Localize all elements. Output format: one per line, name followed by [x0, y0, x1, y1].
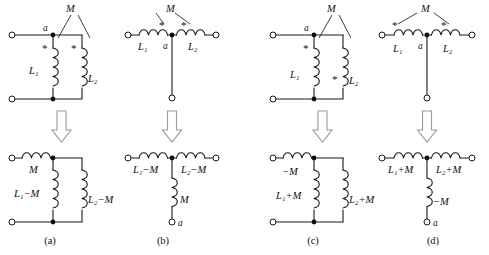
panel-c: M a * * L₁ L₂	[270, 3, 376, 247]
panel-caption-d: (d)	[427, 235, 440, 247]
label-coil-L2: L₂	[442, 43, 453, 54]
node-dot	[312, 33, 317, 38]
label-coil-L1: L₁	[28, 65, 39, 76]
node-dot	[170, 33, 175, 38]
panel-c-bottom-circuit: −M L₁+M L₂+M	[270, 153, 376, 225]
coil-L1	[394, 30, 423, 35]
open-terminal-icon[interactable]	[213, 32, 219, 38]
coil-minus-M-series	[283, 153, 312, 158]
dot-marker-L1: *	[159, 19, 165, 31]
label-node-a: a	[418, 41, 423, 51]
label-coil-L1: L₁	[289, 69, 300, 80]
label-series-minus-M: −M	[282, 166, 299, 177]
open-terminal-icon[interactable]	[469, 155, 475, 161]
coil-M-series	[22, 153, 51, 158]
transform-arrow-c	[313, 111, 332, 142]
coil-L1-plus-M	[394, 153, 423, 158]
coil-L1-minus-M	[53, 170, 58, 208]
open-terminal-icon[interactable]	[270, 32, 276, 38]
label-stem-M: M	[179, 194, 190, 205]
label-mutual-M: M	[65, 3, 76, 14]
panel-b-bottom-circuit: L₁−M L₂−M M a	[125, 153, 219, 228]
dot-marker-L2: *	[441, 19, 447, 31]
coil-L2	[343, 48, 348, 86]
panel-c-top-circuit: M a * * L₁ L₂	[270, 3, 359, 102]
label-coil-L1: L₁	[392, 43, 403, 54]
node-dot	[51, 156, 56, 161]
coil-M-stem	[172, 178, 177, 207]
coil-L1-plus-M	[314, 170, 319, 208]
transform-arrow-d	[418, 111, 437, 142]
node-dot	[51, 33, 56, 38]
node-dot	[51, 220, 56, 225]
label-stem-minus-M: −M	[433, 196, 450, 207]
coil-L2	[82, 48, 87, 86]
label-node-a: a	[163, 41, 168, 51]
label-coil-L1-plus-M: L₁+M	[275, 190, 303, 201]
label-coil-L2-minus-M: L₂−M	[180, 164, 208, 175]
open-terminal-icon[interactable]	[424, 95, 430, 101]
dot-marker-L1: *	[303, 42, 309, 54]
open-terminal-icon[interactable]	[125, 155, 131, 161]
panel-b: M * * a L₁ L₂	[125, 3, 219, 247]
transform-arrow-b	[163, 111, 182, 142]
label-coil-L2: L₂	[87, 73, 98, 84]
open-terminal-icon[interactable]	[169, 95, 175, 101]
label-stem-terminal-a: a	[178, 218, 183, 228]
open-terminal-icon[interactable]	[9, 155, 15, 161]
open-terminal-icon[interactable]	[9, 219, 15, 225]
node-dot	[312, 156, 317, 161]
label-coil-L1-minus-M: L₁−M	[132, 164, 160, 175]
dot-marker-L1: *	[42, 42, 48, 54]
coil-L1	[53, 48, 58, 86]
panel-caption-c: (c)	[307, 235, 319, 247]
coil-L2-plus-M	[343, 170, 348, 208]
open-terminal-icon[interactable]	[270, 96, 276, 102]
panel-a: M a * * L₁ L₂	[9, 3, 115, 247]
label-mutual-M: M	[326, 3, 337, 14]
node-dot	[312, 220, 317, 225]
label-series-M: M	[28, 164, 39, 175]
open-terminal-icon[interactable]	[9, 32, 15, 38]
panel-a-bottom-circuit: M L₁−M L₂−M	[9, 153, 115, 225]
label-node-a: a	[43, 23, 48, 33]
label-coil-L1-minus-M: L₁−M	[13, 188, 41, 199]
dot-marker-L2: *	[332, 73, 338, 85]
panel-d: M * * a L₁ L₂	[379, 3, 475, 247]
coil-L2-plus-M	[432, 153, 461, 158]
label-coil-L1-plus-M: L₁+M	[387, 164, 415, 175]
circuit-figure-canvas: M a * * L₁ L₂	[0, 0, 489, 255]
open-terminal-icon[interactable]	[424, 219, 430, 225]
open-terminal-icon[interactable]	[270, 155, 276, 161]
node-dot	[312, 97, 317, 102]
open-terminal-icon[interactable]	[125, 32, 131, 38]
open-terminal-icon[interactable]	[379, 155, 385, 161]
panel-d-bottom-circuit: L₁+M L₂+M −M a	[379, 153, 475, 228]
panel-b-top-circuit: M * * a L₁ L₂	[125, 3, 219, 101]
label-node-a: a	[304, 23, 309, 33]
dot-marker-L2: *	[181, 19, 187, 31]
coil-L2-minus-M	[177, 153, 206, 158]
label-coil-L2: L₂	[348, 75, 359, 86]
open-terminal-icon[interactable]	[469, 32, 475, 38]
coil-L1-minus-M	[139, 153, 168, 158]
panel-a-top-circuit: M a * * L₁ L₂	[9, 3, 98, 102]
label-mutual-M: M	[420, 3, 431, 14]
open-terminal-icon[interactable]	[9, 96, 15, 102]
open-terminal-icon[interactable]	[213, 155, 219, 161]
transform-arrow-a	[52, 111, 71, 142]
panel-caption-b: (b)	[157, 235, 170, 247]
dot-marker-L2: *	[71, 42, 77, 54]
open-terminal-icon[interactable]	[270, 219, 276, 225]
coil-L2-minus-M	[82, 170, 87, 208]
label-coil-L2: L₂	[187, 41, 198, 52]
label-mutual-M: M	[165, 3, 176, 14]
coil-L1	[314, 48, 319, 86]
panel-caption-a: (a)	[44, 235, 56, 247]
label-coil-L2-minus-M: L₂−M	[87, 194, 115, 205]
node-dot	[425, 33, 430, 38]
label-coil-L1: L₁	[137, 41, 148, 52]
open-terminal-icon[interactable]	[169, 219, 175, 225]
panel-d-top-circuit: M * * a L₁ L₂	[379, 3, 475, 101]
open-terminal-icon[interactable]	[379, 32, 385, 38]
